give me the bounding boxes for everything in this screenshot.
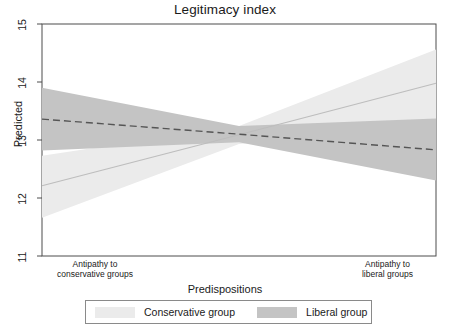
x-axis-label: Predispositions — [0, 283, 450, 295]
x-tick-label-left-line1: Antipathy to — [20, 259, 170, 269]
legend-label-liberal-group: Liberal group — [306, 306, 367, 318]
x-tick-label-left-line2: conservative groups — [20, 269, 170, 279]
x-tick-label-right: Antipathy to liberal groups — [330, 259, 445, 279]
legend-swatch-liberal-group — [257, 307, 297, 318]
x-tick-label-left: Antipathy to conservative groups — [20, 259, 170, 279]
y-tick-label-15: 15 — [16, 15, 28, 35]
y-tick-label-12: 12 — [16, 189, 28, 209]
legend-label-conservative-group: Conservative group — [144, 306, 235, 318]
chart-figure: Legitimacy index Predicted 15 14 13 12 1… — [0, 0, 450, 327]
legend-item-liberal-group: Liberal group — [257, 301, 367, 323]
y-axis-ticks — [37, 24, 42, 256]
legend-item-conservative-group: Conservative group — [95, 301, 235, 323]
y-tick-label-13: 13 — [16, 131, 28, 151]
y-axis-label: Predicted — [12, 84, 24, 164]
y-tick-label-14: 14 — [16, 73, 28, 93]
legend-swatch-conservative-group — [95, 307, 135, 318]
x-tick-label-right-line1: Antipathy to — [330, 259, 445, 269]
chart-legend: Conservative group Liberal group — [85, 300, 372, 324]
x-tick-label-right-line2: liberal groups — [330, 269, 445, 279]
